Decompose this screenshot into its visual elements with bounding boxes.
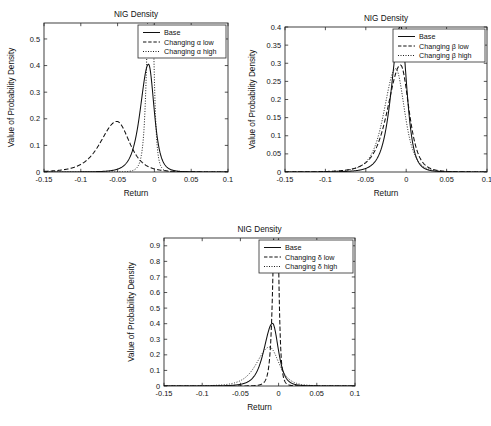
legend-label: Changing δ low: [285, 253, 335, 262]
curves-group: [164, 208, 355, 386]
x-tick-label: 0.05: [310, 389, 324, 398]
y-tick-label: 0.5: [150, 304, 160, 313]
y-tick-label: 0.4: [271, 23, 281, 32]
y-tick-label: 0: [156, 382, 160, 391]
legend-label: Base: [164, 28, 180, 37]
legend: BaseChanging δ lowChanging δ high: [259, 240, 353, 273]
y-tick-label: 0.7: [150, 273, 160, 282]
x-tick-label: 0.05: [184, 175, 198, 184]
chart-panel-alpha: NIG Density-0.15-0.1-0.0500.050.100.10.2…: [0, 0, 245, 210]
x-axis-label: Return: [247, 403, 272, 412]
legend-label: Changing α low: [164, 38, 215, 47]
density-plot-alpha: NIG Density-0.15-0.1-0.0500.050.100.10.2…: [0, 0, 245, 210]
y-tick-label: 0.05: [267, 149, 281, 158]
x-tick-label: -0.05: [232, 389, 249, 398]
x-tick-label: 0.1: [350, 389, 360, 398]
x-tick-label: -0.1: [74, 175, 87, 184]
legend-label: Base: [285, 243, 301, 252]
chart-title: NIG Density: [237, 225, 282, 234]
y-tick-label: 0.3: [271, 59, 281, 68]
x-tick-label: -0.1: [319, 175, 332, 184]
y-tick-label: 0.3: [150, 335, 160, 344]
y-tick-label: 0.3: [30, 88, 40, 97]
density-curve: [44, 64, 228, 172]
y-tick-label: 0.1: [150, 366, 160, 375]
y-tick-label: 0.2: [271, 95, 281, 104]
y-tick-label: 0.4: [150, 319, 160, 328]
x-tick-label: 0: [404, 175, 408, 184]
legend-label: Base: [419, 32, 435, 41]
density-curve: [285, 65, 487, 172]
chart-title: NIG Density: [364, 14, 409, 23]
y-tick-label: 0.5: [30, 35, 40, 44]
chart-title: NIG Density: [114, 10, 159, 19]
y-tick-label: 0: [36, 168, 40, 177]
density-curve: [164, 323, 355, 386]
x-axis-label: Return: [374, 189, 399, 198]
y-tick-label: 0.9: [150, 241, 160, 250]
x-tick-label: 0: [277, 389, 281, 398]
y-axis-label: Value of Probability Density: [127, 261, 136, 361]
legend: BaseChanging α lowChanging α high: [138, 25, 226, 58]
x-tick-label: 0.05: [439, 175, 453, 184]
y-tick-label: 0.6: [150, 288, 160, 297]
density-curve: [285, 69, 487, 172]
y-tick-label: 0.2: [150, 350, 160, 359]
y-tick-label: 0.4: [30, 61, 40, 70]
chart-panel-delta: NIG Density-0.15-0.1-0.0500.050.100.10.2…: [120, 208, 370, 426]
y-axis-label: Value of Probability Density: [7, 47, 16, 147]
x-tick-label: -0.05: [357, 175, 374, 184]
y-tick-label: 0.15: [267, 113, 281, 122]
x-axis-label: Return: [124, 189, 149, 198]
x-tick-label: 0: [152, 175, 156, 184]
density-curve: [44, 121, 228, 172]
x-tick-label: 0.1: [223, 175, 233, 184]
density-curve: [164, 208, 355, 386]
y-tick-label: 0: [277, 168, 281, 177]
density-plot-delta: NIG Density-0.15-0.1-0.0500.050.100.10.2…: [120, 208, 370, 426]
legend: BaseChanging β lowChanging β high: [393, 29, 485, 62]
x-tick-label: -0.05: [109, 175, 126, 184]
y-axis-label: Value of Probability Density: [248, 49, 257, 149]
x-tick-label: -0.1: [196, 389, 209, 398]
legend-label: Changing β high: [419, 51, 472, 60]
legend-label: Changing δ high: [285, 262, 337, 271]
x-tick-label: 0.1: [482, 175, 491, 184]
y-tick-label: 0.8: [150, 257, 160, 266]
y-tick-label: 0.2: [30, 114, 40, 123]
y-tick-label: 0.25: [267, 77, 281, 86]
legend-label: Changing α high: [164, 47, 217, 56]
legend-label: Changing β low: [419, 42, 469, 51]
y-tick-label: 0.35: [267, 41, 281, 50]
density-plot-beta: NIG Density-0.15-0.1-0.0500.050.100.050.…: [245, 0, 491, 210]
y-tick-label: 0.1: [271, 131, 281, 140]
y-tick-label: 0.1: [30, 141, 40, 150]
chart-panel-beta: NIG Density-0.15-0.1-0.0500.050.100.050.…: [245, 0, 491, 210]
